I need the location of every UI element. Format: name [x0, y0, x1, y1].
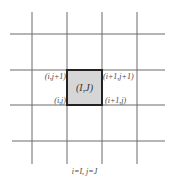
corner-label-top-left: (i,j+1) [45, 72, 67, 81]
corner-label-bottom-left: (i,j) [54, 96, 66, 105]
caption: i=I, j=J [72, 167, 98, 176]
corner-label-top-right: (i+1,j+1) [103, 72, 134, 81]
grid-diagram: (I,J) (i,j+1) (i+1,j+1) (i,j) (i+1,j) i=… [0, 0, 175, 184]
corner-label-bottom-right: (i+1,j) [105, 96, 127, 105]
cell-label: (I,J) [76, 82, 94, 94]
